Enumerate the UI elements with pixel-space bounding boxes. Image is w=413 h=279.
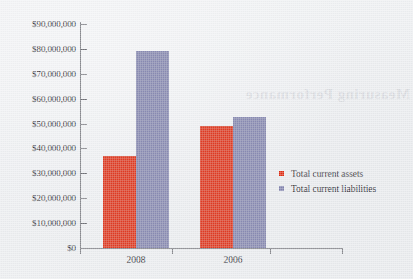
- y-axis-tick-label: $20,000,000: [32, 193, 76, 203]
- bar-2008-liabilities: [136, 51, 169, 248]
- y-axis-tick-mark: [81, 74, 87, 75]
- y-axis-tick-label: $60,000,000: [32, 94, 76, 104]
- x-axis-category-label: 2006: [224, 255, 243, 265]
- x-axis-separator-tick: [342, 249, 343, 254]
- x-axis-separator-tick: [270, 249, 271, 254]
- y-axis-line: [80, 22, 81, 249]
- y-axis-tick-mark: [81, 198, 87, 199]
- legend-swatch-icon: [279, 186, 284, 191]
- y-axis-tick-label: $90,000,000: [32, 19, 76, 29]
- legend-label: Total current assets: [291, 169, 363, 179]
- y-axis-tick-label: $30,000,000: [32, 168, 76, 178]
- bar-chart: $90,000,000$80,000,000$70,000,000$60,000…: [0, 0, 413, 279]
- y-axis-tick-label: $40,000,000: [32, 143, 76, 153]
- y-axis-tick-mark: [81, 223, 87, 224]
- y-axis-tick-label: $80,000,000: [32, 44, 76, 54]
- legend-swatch-icon: [279, 171, 284, 176]
- x-axis-category-label: 2008: [127, 255, 146, 265]
- bar-2006-assets: [200, 126, 233, 248]
- y-axis-tick-mark: [81, 24, 87, 25]
- legend-item: Total current assets: [279, 166, 376, 181]
- y-axis-tick-label: $70,000,000: [32, 69, 76, 79]
- legend-label: Total current liabilities: [291, 184, 376, 194]
- bar-2006-liabilities: [233, 117, 266, 248]
- y-axis-tick-mark: [81, 49, 87, 50]
- y-axis-tick-mark: [81, 99, 87, 100]
- legend-item: Total current liabilities: [279, 181, 376, 196]
- x-axis-line: [80, 248, 343, 249]
- x-axis-separator-tick: [80, 249, 81, 254]
- y-axis-tick-label: $50,000,000: [32, 119, 76, 129]
- y-axis-tick-mark: [81, 173, 87, 174]
- chart-legend: Total current assetsTotal current liabil…: [279, 166, 376, 196]
- chart-page: Measuring Performance $90,000,000$80,000…: [0, 0, 413, 279]
- y-axis-tick-label: $0: [67, 243, 76, 253]
- bar-2008-assets: [103, 156, 136, 248]
- y-axis-tick-mark: [81, 124, 87, 125]
- x-axis-separator-tick: [172, 249, 173, 254]
- y-axis-tick-label: $10,000,000: [32, 218, 76, 228]
- y-axis-tick-mark: [81, 148, 87, 149]
